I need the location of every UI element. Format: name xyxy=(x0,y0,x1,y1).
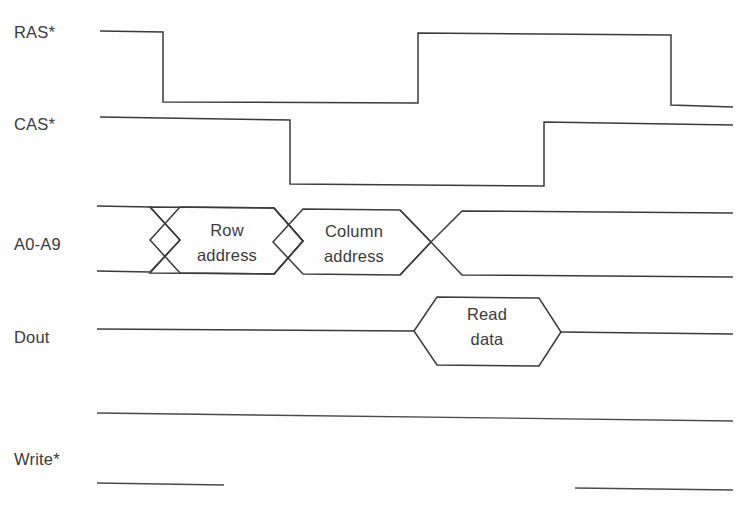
bus-cell-column-address-label-line1: Column xyxy=(325,222,383,240)
signal-label-write: Write* xyxy=(14,450,60,468)
bus-cell-row-address-label-line1: Row xyxy=(210,221,244,239)
signal-row-cas: CAS* xyxy=(14,115,733,186)
timing-diagram-root: RAS* CAS* A0-A9 Row address xyxy=(0,0,751,507)
bus-cell-column-address-outline xyxy=(273,209,431,275)
signal-row-a0-a9: A0-A9 Row address Column address xyxy=(14,206,733,277)
bus-crossing-row-column xyxy=(274,208,303,274)
signal-row-ras: RAS* xyxy=(14,23,733,107)
timing-diagram-canvas: RAS* CAS* A0-A9 Row address xyxy=(0,0,751,507)
bus-segment-leading-top xyxy=(97,206,180,240)
waveform-dout-right-baseline xyxy=(561,332,733,334)
dout-cell-read-data-label-line2: data xyxy=(471,330,505,348)
waveform-cas xyxy=(100,117,733,186)
bus-cell-column-address-label-line2: address xyxy=(324,247,384,265)
bus-segment-leading-bottom xyxy=(97,240,180,272)
signal-label-cas: CAS* xyxy=(14,115,56,133)
waveform-write-high-line xyxy=(97,413,733,421)
bus-segment-trailing-bottom xyxy=(400,242,733,277)
dout-cell-read-data-label-line1: Read xyxy=(467,305,507,323)
signal-row-dout: Dout Read data xyxy=(14,297,733,366)
waveform-write-low-line-left xyxy=(97,483,224,485)
signal-label-a0-a9: A0-A9 xyxy=(14,235,61,253)
signal-label-ras: RAS* xyxy=(14,23,56,41)
signal-row-write: Write* xyxy=(14,413,733,490)
waveform-ras xyxy=(100,31,733,107)
waveform-write-low-line-right xyxy=(575,488,733,490)
bus-segment-trailing-top xyxy=(400,210,733,242)
signal-label-dout: Dout xyxy=(14,328,50,346)
bus-cell-row-address-label-line2: address xyxy=(197,246,257,264)
waveform-dout-left-baseline xyxy=(97,329,414,331)
